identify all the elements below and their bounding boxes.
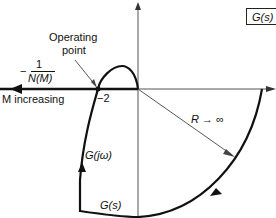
nyquist-diagram	[0, 0, 276, 218]
operating-point-label-line1: Operating	[49, 31, 97, 43]
r-infinity-direction-arrow-icon	[210, 188, 222, 196]
radius-label: R → ∞	[191, 113, 224, 125]
gjw-direction-arrow-icon	[78, 162, 86, 172]
operating-point-label-line2: point	[62, 44, 86, 56]
imaginary-axis-arrow-icon	[135, 2, 141, 10]
g-jw-label: G(jω)	[85, 149, 112, 161]
crossing-value-label: −2	[97, 92, 110, 104]
fraction-denominator: N(M)	[28, 72, 52, 84]
operating-point-marker	[96, 87, 101, 92]
fraction-numerator: 1	[36, 58, 42, 70]
m-increasing-label: M increasing	[2, 93, 64, 105]
g-s-bottom-label: G(s)	[100, 199, 121, 211]
minus-sign: −	[20, 65, 26, 77]
real-axis-arrow-icon	[266, 86, 276, 92]
transfer-function-box: G(s)	[246, 8, 276, 25]
